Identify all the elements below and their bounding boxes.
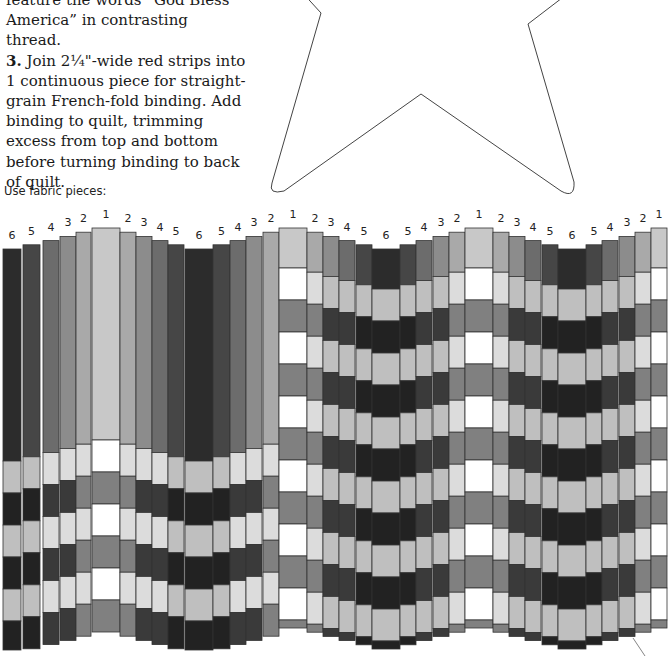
- leader-line: [0, 0, 670, 660]
